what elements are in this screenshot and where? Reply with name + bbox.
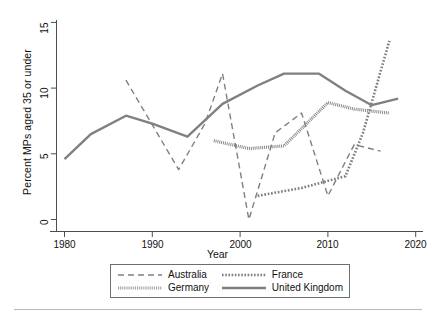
- y-axis-ticks: [51, 22, 56, 219]
- legend-swatch-germany: [117, 283, 163, 293]
- legend-label-uk: United Kingdom: [272, 282, 343, 293]
- series-line-france: [258, 41, 390, 196]
- y-tick-label-0: 0: [39, 220, 50, 240]
- series-line-germany: [214, 103, 390, 149]
- x-tick-label-2000: 2000: [219, 239, 262, 250]
- y-tick-label-10: 10: [39, 88, 50, 114]
- y-tick-label-15: 15: [39, 23, 50, 49]
- legend-swatch-uk: [221, 283, 267, 293]
- legend-label-germany: Germany: [168, 282, 209, 293]
- legend-entry-uk: United Kingdom: [221, 282, 343, 293]
- y-axis-title: Percent MPs aged 35 or under: [21, 17, 33, 227]
- series-layer: [65, 41, 399, 220]
- x-tick-label-2010: 2010: [306, 239, 349, 250]
- series-line-australia: [126, 74, 381, 220]
- legend-entry-australia: Australia: [117, 269, 221, 280]
- x-tick-label-2020: 2020: [394, 239, 435, 250]
- footer-rule: [14, 309, 422, 310]
- x-tick-label-1990: 1990: [131, 239, 174, 250]
- legend-entry-france: France: [221, 269, 343, 280]
- chart-figure: Percent MPs aged 35 or under Year 0 5 10…: [0, 0, 435, 322]
- x-axis-ticks: [65, 232, 416, 237]
- legend-swatch-australia: [117, 270, 163, 280]
- chart-legend: Australia France Germany United Kingdom: [110, 264, 350, 298]
- legend-label-australia: Australia: [168, 269, 207, 280]
- legend-label-france: France: [272, 269, 303, 280]
- series-line-united-kingdom: [65, 74, 399, 159]
- legend-entry-germany: Germany: [117, 282, 221, 293]
- y-tick-label-5: 5: [39, 154, 50, 174]
- legend-swatch-france: [221, 270, 267, 280]
- x-tick-label-1980: 1980: [43, 239, 86, 250]
